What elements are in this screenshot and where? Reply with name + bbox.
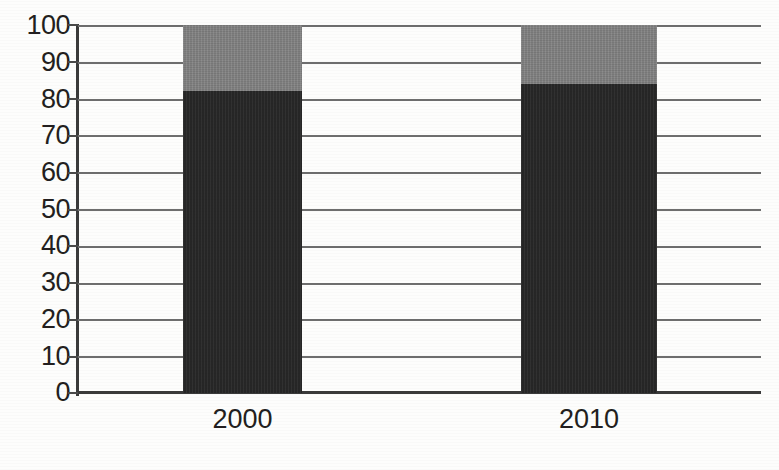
- y-axis-label-0: 0: [8, 379, 70, 406]
- gridline-20: [78, 319, 761, 321]
- gridline-10: [78, 356, 761, 358]
- bar-2000-upper-segment[interactable]: [183, 25, 302, 91]
- bar-2000[interactable]: [183, 25, 302, 393]
- y-axis-label-50: 50: [8, 196, 70, 223]
- gridline-90: [78, 62, 761, 64]
- gridline-60: [78, 172, 761, 174]
- gridline-40: [78, 246, 761, 248]
- bar-2010[interactable]: [521, 25, 657, 393]
- gridline-100: [78, 25, 761, 27]
- gridline-50: [78, 209, 761, 211]
- bar-2010-lower-segment[interactable]: [521, 84, 657, 393]
- y-axis-label-40: 40: [8, 232, 70, 259]
- y-axis-label-80: 80: [8, 86, 70, 113]
- y-axis-label-60: 60: [8, 159, 70, 186]
- y-tick-20: [68, 319, 78, 321]
- y-axis-label-10: 10: [8, 343, 70, 370]
- y-tick-40: [68, 245, 78, 247]
- y-axis-label-30: 30: [8, 269, 70, 296]
- gridline-baseline-0: [78, 391, 761, 394]
- x-axis-label-2000: 2000: [183, 404, 302, 434]
- plot-area: [78, 25, 761, 393]
- bar-2010-upper-segment[interactable]: [521, 25, 657, 84]
- gridline-30: [78, 283, 761, 285]
- y-tick-50: [68, 209, 78, 211]
- y-axis-label-100: 100: [8, 12, 70, 39]
- y-axis-label-70: 70: [8, 122, 70, 149]
- y-tick-0: [68, 392, 78, 394]
- y-axis-label-20: 20: [8, 306, 70, 333]
- y-tick-70: [68, 135, 78, 137]
- y-tick-10: [68, 356, 78, 358]
- stacked-bar-chart: 100 90 80 70 60 50 40 30 20 10 0: [0, 0, 779, 470]
- y-tick-90: [68, 61, 78, 63]
- gridline-80: [78, 99, 761, 101]
- bar-2000-lower-segment[interactable]: [183, 91, 302, 393]
- y-tick-80: [68, 98, 78, 100]
- gridline-70: [78, 135, 761, 137]
- y-tick-100: [68, 24, 78, 26]
- y-tick-60: [68, 172, 78, 174]
- y-axis-labels: 100 90 80 70 60 50 40 30 20 10 0: [0, 0, 70, 470]
- y-tick-30: [68, 282, 78, 284]
- x-axis-label-2010: 2010: [521, 404, 657, 434]
- y-axis-label-90: 90: [8, 49, 70, 76]
